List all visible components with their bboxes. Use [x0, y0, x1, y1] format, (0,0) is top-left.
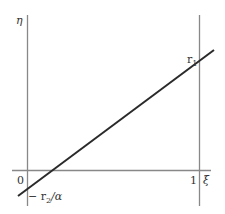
- intercept-label: − r2/α: [28, 190, 63, 205]
- x-one-label: 1: [190, 174, 197, 187]
- intercept-prefix: − r: [28, 190, 47, 203]
- r1-label: r1: [187, 53, 197, 68]
- origin-label: 0: [17, 174, 24, 187]
- r1-sub: 1: [192, 59, 197, 68]
- diagram-svg: η r1 0 − r2/α 1 ξ: [0, 0, 225, 214]
- intercept-suffix: /α: [50, 190, 63, 203]
- xi-label: ξ: [203, 174, 210, 187]
- linear-function-line: [18, 50, 214, 196]
- eta-label: η: [16, 14, 23, 27]
- diagram-canvas: η r1 0 − r2/α 1 ξ: [0, 0, 225, 214]
